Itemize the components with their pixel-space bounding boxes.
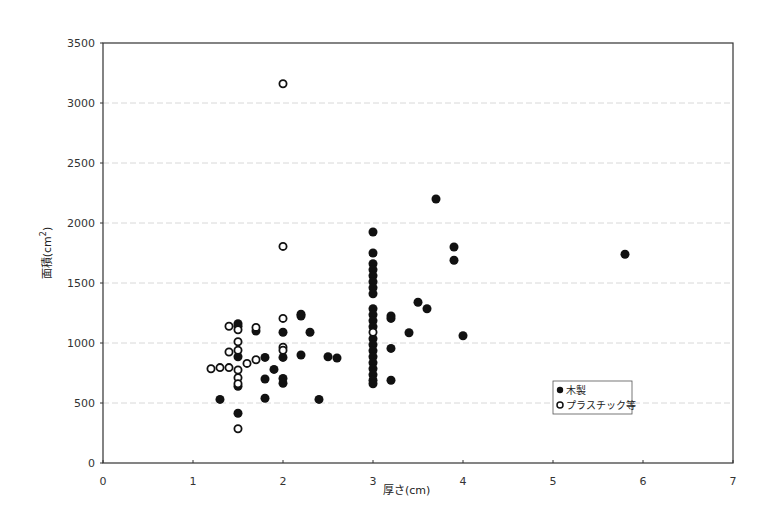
data-point	[279, 347, 286, 354]
data-point	[387, 344, 396, 353]
data-point	[225, 323, 232, 330]
legend-label-wood: 木製	[566, 384, 586, 396]
x-axis-title: 厚さ(cm)	[383, 484, 430, 497]
data-point	[387, 376, 396, 385]
data-point	[432, 195, 441, 204]
data-point	[297, 351, 306, 360]
scatter-chart: 0500100015002000250030003500 01234567 厚さ…	[0, 0, 766, 529]
x-tick-label: 4	[460, 475, 467, 488]
data-point	[369, 249, 378, 258]
data-point	[279, 80, 286, 87]
x-tick-label: 2	[280, 475, 287, 488]
data-point	[225, 348, 232, 355]
data-point	[450, 256, 459, 265]
data-point	[234, 338, 241, 345]
data-point	[405, 328, 414, 337]
data-point	[279, 315, 286, 322]
x-tick-label: 5	[550, 475, 557, 488]
data-point	[297, 312, 306, 321]
y-tick-label: 1500	[67, 277, 95, 290]
x-tick-label: 0	[100, 475, 107, 488]
data-point	[234, 326, 241, 333]
y-tick-label: 500	[74, 397, 95, 410]
data-point	[315, 395, 324, 404]
data-point	[306, 328, 315, 337]
data-points	[207, 80, 629, 432]
data-point	[216, 395, 225, 404]
y-axis-title: 面積(cm2)	[39, 227, 54, 279]
data-point	[423, 304, 432, 313]
data-point	[216, 364, 223, 371]
data-point	[261, 375, 270, 384]
plot-area	[103, 43, 733, 463]
data-point	[369, 329, 376, 336]
series-plastic	[207, 80, 376, 432]
y-tick-label: 0	[88, 457, 95, 470]
data-point	[234, 347, 241, 354]
data-point	[279, 379, 288, 388]
data-point	[621, 250, 630, 259]
legend-filled-circle-icon	[557, 387, 563, 393]
svg-text:面積(cm2): 面積(cm2)	[39, 227, 54, 279]
y-tick-label: 2500	[67, 157, 95, 170]
data-point	[324, 352, 333, 361]
x-tick-label: 3	[370, 475, 377, 488]
y-tick-label: 1000	[67, 337, 95, 350]
y-gridlines	[103, 103, 733, 403]
legend-hollow-circle-icon	[557, 402, 563, 408]
data-point	[261, 394, 270, 403]
data-point	[369, 379, 378, 388]
y-tick-label: 2000	[67, 217, 95, 230]
x-tick-label: 6	[640, 475, 647, 488]
data-point	[234, 366, 241, 373]
data-point	[369, 228, 378, 237]
data-point	[243, 360, 250, 367]
data-point	[369, 289, 378, 298]
data-point	[450, 243, 459, 252]
data-point	[252, 324, 259, 331]
y-tick-label: 3500	[67, 37, 95, 50]
data-point	[234, 380, 241, 387]
data-point	[234, 409, 243, 418]
data-point	[270, 365, 279, 374]
y-tick-label: 3000	[67, 97, 95, 110]
data-point	[207, 365, 214, 372]
data-point	[414, 298, 423, 307]
y-axis-ticks: 0500100015002000250030003500	[67, 37, 103, 470]
data-point	[279, 328, 288, 337]
legend-label-plastic: プラスチック等	[566, 399, 636, 411]
data-point	[261, 353, 270, 362]
data-point	[252, 356, 259, 363]
data-point	[279, 243, 286, 250]
legend: 木製 プラスチック等	[553, 381, 636, 414]
x-tick-label: 7	[730, 475, 737, 488]
data-point	[387, 314, 396, 323]
data-point	[333, 354, 342, 363]
data-point	[225, 364, 232, 371]
x-tick-label: 1	[190, 475, 197, 488]
data-point	[234, 425, 241, 432]
data-point	[459, 331, 468, 340]
